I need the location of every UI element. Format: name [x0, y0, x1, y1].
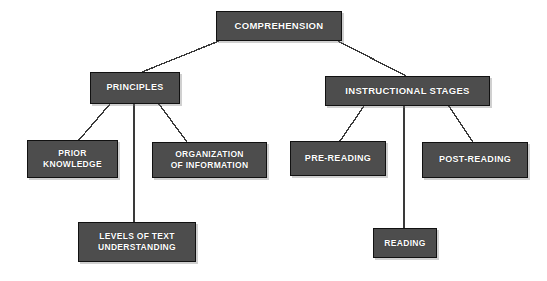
node-label-post-reading: POST-READING — [435, 154, 515, 165]
node-comprehension: COMPREHENSION — [216, 11, 342, 41]
node-label-reading: READING — [380, 238, 429, 249]
node-post-reading: POST-READING — [422, 142, 528, 178]
node-pre-reading: PRE-READING — [290, 141, 386, 176]
edge-comprehension-principles — [142, 41, 219, 72]
edge-stages-pre-reading — [340, 106, 364, 141]
node-reading: READING — [373, 228, 437, 258]
edge-principles-prior-knowledge — [79, 104, 110, 140]
node-label-pre-reading: PRE-READING — [301, 153, 375, 164]
edge-stages-post-reading — [449, 106, 473, 142]
node-label-levels-of-text-understanding: LEVELS OF TEXT UNDERSTANDING — [94, 231, 180, 252]
node-prior-knowledge: PRIOR KNOWLEDGE — [27, 140, 118, 178]
node-levels-of-text-understanding: LEVELS OF TEXT UNDERSTANDING — [78, 222, 196, 262]
node-instructional-stages: INSTRUCTIONAL STAGES — [325, 76, 490, 106]
node-label-principles: PRINCIPLES — [102, 82, 167, 93]
node-label-organization-of-information: ORGANIZATION OF INFORMATION — [167, 149, 253, 170]
edge-principles-organization — [159, 104, 187, 142]
edge-comprehension-instructional-stages — [338, 41, 406, 76]
node-label-instructional-stages: INSTRUCTIONAL STAGES — [341, 85, 473, 97]
comprehension-diagram: COMPREHENSIONPRINCIPLESINSTRUCTIONAL STA… — [0, 0, 547, 281]
node-label-comprehension: COMPREHENSION — [231, 20, 328, 32]
node-principles: PRINCIPLES — [90, 72, 180, 104]
node-organization-of-information: ORGANIZATION OF INFORMATION — [152, 142, 267, 178]
node-label-prior-knowledge: PRIOR KNOWLEDGE — [39, 148, 106, 169]
